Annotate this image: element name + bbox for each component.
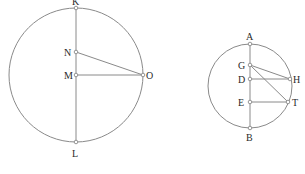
- point-H: [288, 77, 292, 81]
- point-D: [248, 77, 252, 81]
- label-E: E: [238, 97, 244, 108]
- geometry-diagram: K N M O L A G D E B H T: [0, 0, 305, 174]
- label-K: K: [72, 0, 80, 7]
- label-H: H: [293, 74, 300, 85]
- point-G: [248, 63, 252, 67]
- point-O: [141, 73, 145, 77]
- label-B: B: [246, 132, 253, 143]
- label-A: A: [246, 31, 254, 42]
- label-L: L: [72, 148, 78, 159]
- label-O: O: [146, 70, 153, 81]
- label-G: G: [238, 60, 245, 71]
- label-D: D: [238, 74, 245, 85]
- point-A: [248, 42, 252, 46]
- point-E: [248, 100, 252, 104]
- point-T: [286, 100, 290, 104]
- point-N: [74, 50, 78, 54]
- segment-GH: [250, 65, 290, 79]
- segment-NO: [76, 52, 143, 75]
- point-L: [74, 140, 78, 144]
- point-B: [248, 126, 252, 130]
- label-M: M: [64, 70, 73, 81]
- point-M: [74, 73, 78, 77]
- label-N: N: [64, 47, 71, 58]
- label-T: T: [292, 97, 298, 108]
- segment-GT: [250, 65, 288, 102]
